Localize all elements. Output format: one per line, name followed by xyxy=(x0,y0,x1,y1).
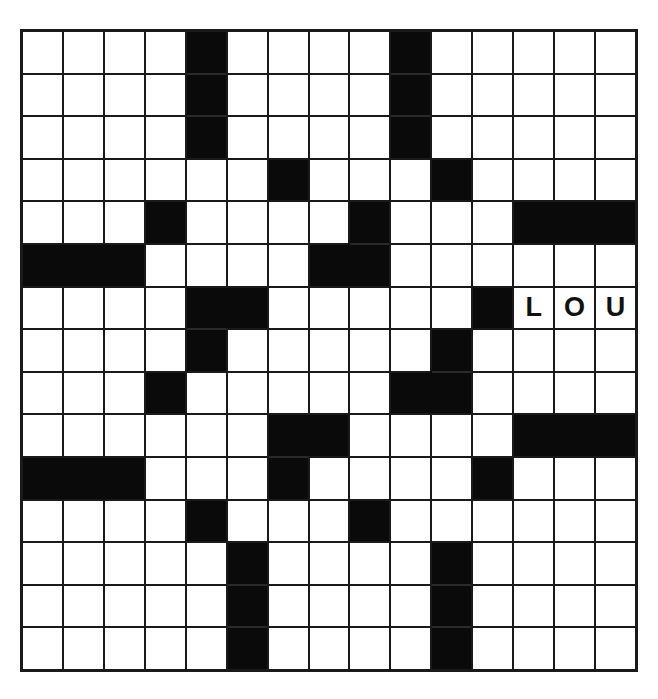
crossword-cell[interactable] xyxy=(514,543,553,584)
crossword-cell[interactable] xyxy=(473,202,512,243)
crossword-cell[interactable] xyxy=(228,373,267,414)
crossword-cell[interactable] xyxy=(473,543,512,584)
crossword-cell[interactable] xyxy=(146,458,185,499)
crossword-cell[interactable] xyxy=(146,245,185,286)
crossword-cell[interactable] xyxy=(391,458,430,499)
crossword-cell[interactable] xyxy=(596,586,635,627)
crossword-cell[interactable] xyxy=(473,373,512,414)
crossword-cell[interactable] xyxy=(187,586,226,627)
crossword-cell[interactable] xyxy=(105,117,144,158)
crossword-cell[interactable] xyxy=(310,117,349,158)
crossword-cell[interactable] xyxy=(555,32,594,73)
crossword-cell[interactable] xyxy=(350,330,389,371)
crossword-cell[interactable] xyxy=(391,288,430,329)
crossword-cell[interactable] xyxy=(350,458,389,499)
crossword-cell[interactable] xyxy=(391,628,430,669)
crossword-cell[interactable] xyxy=(146,543,185,584)
crossword-cell[interactable] xyxy=(596,543,635,584)
crossword-cell[interactable] xyxy=(391,543,430,584)
crossword-cell[interactable] xyxy=(350,117,389,158)
crossword-cell[interactable] xyxy=(64,501,103,542)
crossword-cell[interactable] xyxy=(473,415,512,456)
crossword-cell[interactable] xyxy=(473,586,512,627)
crossword-cell[interactable] xyxy=(269,330,308,371)
crossword-cell[interactable] xyxy=(473,628,512,669)
crossword-cell[interactable] xyxy=(187,373,226,414)
crossword-cell[interactable] xyxy=(269,628,308,669)
crossword-cell[interactable] xyxy=(432,32,471,73)
crossword-cell[interactable] xyxy=(23,415,62,456)
crossword-cell[interactable] xyxy=(350,586,389,627)
crossword-cell[interactable] xyxy=(269,501,308,542)
crossword-cell[interactable] xyxy=(555,501,594,542)
crossword-cell[interactable] xyxy=(269,32,308,73)
crossword-cell[interactable] xyxy=(269,373,308,414)
crossword-cell[interactable] xyxy=(269,245,308,286)
crossword-cell[interactable] xyxy=(310,330,349,371)
crossword-cell[interactable] xyxy=(146,330,185,371)
crossword-cell[interactable] xyxy=(64,75,103,116)
crossword-cell[interactable]: L xyxy=(514,288,553,329)
crossword-cell[interactable] xyxy=(105,543,144,584)
crossword-cell[interactable] xyxy=(514,330,553,371)
crossword-cell[interactable]: O xyxy=(555,288,594,329)
crossword-cell[interactable] xyxy=(64,586,103,627)
crossword-cell[interactable] xyxy=(23,75,62,116)
crossword-cell[interactable] xyxy=(596,330,635,371)
crossword-cell[interactable] xyxy=(23,117,62,158)
crossword-cell[interactable] xyxy=(432,415,471,456)
crossword-cell[interactable] xyxy=(228,415,267,456)
crossword-cell[interactable] xyxy=(105,628,144,669)
crossword-cell[interactable] xyxy=(391,330,430,371)
crossword-cell[interactable] xyxy=(596,628,635,669)
crossword-cell[interactable] xyxy=(228,458,267,499)
crossword-cell[interactable] xyxy=(391,586,430,627)
crossword-cell[interactable] xyxy=(187,160,226,201)
crossword-cell[interactable] xyxy=(555,75,594,116)
crossword-cell[interactable] xyxy=(64,330,103,371)
crossword-cell[interactable] xyxy=(105,330,144,371)
crossword-cell[interactable] xyxy=(514,117,553,158)
crossword-cell[interactable] xyxy=(350,32,389,73)
crossword-cell[interactable] xyxy=(596,32,635,73)
crossword-cell[interactable] xyxy=(310,543,349,584)
crossword-cell[interactable] xyxy=(64,32,103,73)
crossword-cell[interactable] xyxy=(473,32,512,73)
crossword-cell[interactable] xyxy=(555,330,594,371)
crossword-cell[interactable] xyxy=(555,160,594,201)
crossword-cell[interactable] xyxy=(391,415,430,456)
crossword-cell[interactable] xyxy=(514,32,553,73)
crossword-cell[interactable] xyxy=(23,543,62,584)
crossword-cell[interactable] xyxy=(187,245,226,286)
crossword-cell[interactable] xyxy=(146,415,185,456)
crossword-cell[interactable] xyxy=(64,160,103,201)
crossword-cell[interactable] xyxy=(310,32,349,73)
crossword-cell[interactable] xyxy=(391,160,430,201)
crossword-cell[interactable] xyxy=(23,501,62,542)
crossword-cell[interactable] xyxy=(555,117,594,158)
crossword-cell[interactable]: U xyxy=(596,288,635,329)
crossword-cell[interactable] xyxy=(473,160,512,201)
crossword-cell[interactable] xyxy=(514,160,553,201)
crossword-cell[interactable] xyxy=(596,245,635,286)
crossword-cell[interactable] xyxy=(23,373,62,414)
crossword-cell[interactable] xyxy=(228,32,267,73)
crossword-cell[interactable] xyxy=(596,373,635,414)
crossword-cell[interactable] xyxy=(146,586,185,627)
crossword-cell[interactable] xyxy=(310,288,349,329)
crossword-cell[interactable] xyxy=(473,245,512,286)
crossword-cell[interactable] xyxy=(391,202,430,243)
crossword-cell[interactable] xyxy=(146,75,185,116)
crossword-cell[interactable] xyxy=(310,458,349,499)
crossword-cell[interactable] xyxy=(146,288,185,329)
crossword-cell[interactable] xyxy=(23,160,62,201)
crossword-cell[interactable] xyxy=(146,160,185,201)
crossword-cell[interactable] xyxy=(596,501,635,542)
crossword-cell[interactable] xyxy=(391,501,430,542)
crossword-cell[interactable] xyxy=(269,543,308,584)
crossword-cell[interactable] xyxy=(310,75,349,116)
crossword-cell[interactable] xyxy=(105,586,144,627)
crossword-cell[interactable] xyxy=(514,75,553,116)
crossword-cell[interactable] xyxy=(269,586,308,627)
crossword-cell[interactable] xyxy=(555,458,594,499)
